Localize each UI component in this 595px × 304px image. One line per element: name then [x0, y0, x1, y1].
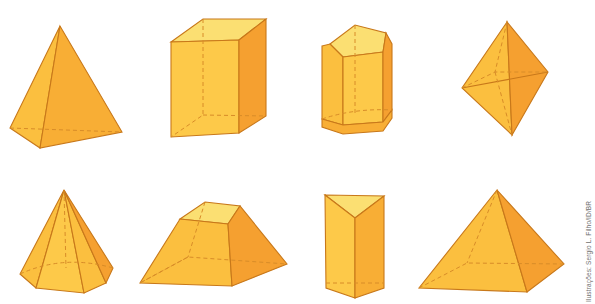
shape-rectangular-prism	[171, 19, 266, 137]
pentagonal-prism-face-front	[343, 52, 383, 125]
rectangular-prism-face-front	[171, 40, 239, 137]
illustration-credit: Ilustrações: Sergio L. Filho/ID/BR	[583, 152, 595, 302]
shape-triangular-prism	[325, 195, 384, 298]
pentagonal-prism-face-left	[322, 44, 343, 125]
pentagonal-prism-face-right	[383, 33, 392, 122]
